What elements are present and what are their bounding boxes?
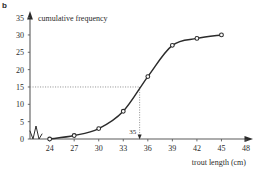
y-axis-arrowhead bbox=[27, 11, 33, 20]
y-tick-label-5: 5 bbox=[20, 118, 24, 127]
chart-svg: 05101520253035 242730333639424548 cumula… bbox=[0, 0, 263, 177]
data-point-36-18 bbox=[146, 75, 150, 79]
data-point-42-29 bbox=[195, 37, 199, 41]
x-tick-label-33: 33 bbox=[119, 144, 127, 153]
y-tick-label-25: 25 bbox=[16, 48, 24, 57]
x-tick-label-27: 27 bbox=[70, 144, 78, 153]
y-tick-label-15: 15 bbox=[16, 83, 24, 92]
data-point-33-8 bbox=[121, 109, 125, 113]
x-tick-label-42: 42 bbox=[193, 144, 201, 153]
y-tick-labels: 05101520253035 bbox=[16, 14, 24, 144]
axis-break-zigzag bbox=[30, 126, 42, 139]
x-axis-title: trout length (cm) bbox=[192, 158, 247, 167]
data-point-27-1 bbox=[72, 134, 76, 138]
data-point-39-27 bbox=[170, 43, 174, 47]
median-annotation-label: 35 bbox=[129, 128, 137, 136]
median-construction-lines bbox=[30, 87, 142, 140]
data-point-24-0 bbox=[48, 137, 52, 141]
x-tick-labels: 242730333639424548 bbox=[46, 144, 250, 153]
y-tick-label-10: 10 bbox=[16, 100, 24, 109]
y-tick-label-0: 0 bbox=[20, 135, 24, 144]
y-tick-label-20: 20 bbox=[16, 66, 24, 75]
x-tick-label-30: 30 bbox=[95, 144, 103, 153]
x-tick-label-45: 45 bbox=[217, 144, 225, 153]
x-tick-label-48: 48 bbox=[242, 144, 250, 153]
y-axis-title: cumulative frequency bbox=[38, 14, 108, 23]
y-tick-label-30: 30 bbox=[16, 31, 24, 40]
data-point-45-30 bbox=[220, 33, 224, 37]
x-tick-label-39: 39 bbox=[168, 144, 176, 153]
x-tick-label-24: 24 bbox=[46, 144, 54, 153]
part-label: b bbox=[2, 1, 7, 10]
cumulative-frequency-chart: b 05101520253035 242730333639424548 cumu… bbox=[0, 0, 263, 177]
y-tick-label-35: 35 bbox=[16, 14, 24, 23]
data-point-30-3 bbox=[97, 127, 101, 131]
x-tick-label-36: 36 bbox=[144, 144, 152, 153]
